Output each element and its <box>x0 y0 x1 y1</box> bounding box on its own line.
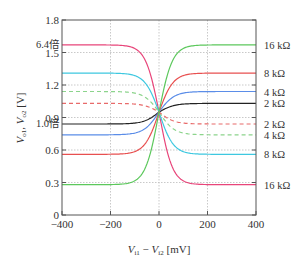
y-tick-label: 0.3 <box>45 177 59 189</box>
series-label: 16 kΩ <box>264 180 290 191</box>
gain-annotation: 1.0倍 <box>36 117 60 129</box>
grid <box>62 20 256 215</box>
x-tick-label: 400 <box>248 218 265 230</box>
chart: −400−2000200400 00.30.60.91.21.51.8 6.4倍… <box>0 0 303 263</box>
series-label: 4 kΩ <box>264 87 285 98</box>
series-label: 16 kΩ <box>264 40 290 51</box>
x-tick-label: 200 <box>199 218 216 230</box>
series-label: 8 kΩ <box>264 68 285 79</box>
series-labels: 16 kΩ8 kΩ4 kΩ2 kΩ2 kΩ4 kΩ8 kΩ16 kΩ <box>264 40 290 191</box>
series-label: 8 kΩ <box>264 149 285 160</box>
x-tick-label: 0 <box>156 218 162 230</box>
y-axis-label: Vo1, Vo2 [V] <box>14 93 28 144</box>
series-label: 2 kΩ <box>264 98 285 109</box>
y-tick-label: 0 <box>54 209 60 221</box>
gain-annotation: 6.4倍 <box>36 38 60 50</box>
x-label-unit: [mV] <box>164 243 191 255</box>
series-label: 4 kΩ <box>264 130 285 141</box>
x-label-minus: − <box>140 243 152 255</box>
y-tick-label: 1.8 <box>45 14 59 26</box>
x-tick-labels: −400−2000200400 <box>51 218 265 230</box>
y-label-unit: [V] <box>14 93 26 111</box>
y-tick-label: 1.2 <box>45 79 59 91</box>
y-tick-label: 0.6 <box>45 144 59 156</box>
series-label: 2 kΩ <box>264 119 285 130</box>
x-axis-label: Vi1 − Vi2 [mV] <box>128 243 191 257</box>
x-tick-label: −200 <box>99 218 122 230</box>
